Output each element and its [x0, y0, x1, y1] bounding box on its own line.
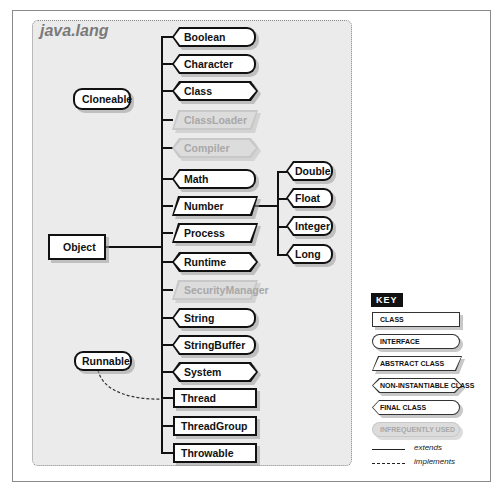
node-character[interactable]: Character [172, 54, 256, 74]
node-boolean[interactable]: Boolean [172, 27, 256, 47]
node-math[interactable]: Math [172, 169, 256, 189]
node-cloneable[interactable]: Cloneable [73, 88, 131, 110]
node-compiler[interactable]: Compiler [172, 138, 258, 158]
node-classloader[interactable]: ClassLoader [172, 110, 258, 130]
key-infrequently-used: INFREQUENTLY USED [372, 422, 460, 437]
branch-line [161, 452, 173, 454]
key-title: KEY [371, 293, 403, 307]
node-thread[interactable]: Thread [173, 388, 257, 408]
extends-legend-label: extends [414, 443, 442, 452]
extends-legend-line [372, 449, 405, 450]
node-runnable[interactable]: Runnable [74, 351, 132, 371]
object-connector [106, 246, 162, 248]
key-non-instantiable-class: NON-INSTANTIABLE CLASS [372, 378, 462, 393]
node-object[interactable]: Object [48, 234, 106, 260]
node-string[interactable]: String [172, 308, 256, 328]
node-throwable[interactable]: Throwable [173, 443, 257, 463]
node-securitymanager[interactable]: SecurityManager [172, 280, 258, 300]
node-double[interactable]: Double [286, 161, 333, 181]
node-number[interactable]: Number [172, 196, 258, 216]
node-class[interactable]: Class [172, 81, 258, 101]
key-final-class: FINAL CLASS [372, 400, 460, 415]
node-stringbuffer[interactable]: StringBuffer [172, 335, 256, 355]
implements-legend-label: implements [414, 457, 455, 466]
package-title: java.lang [40, 22, 108, 40]
node-float[interactable]: Float [286, 188, 333, 208]
implements-legend-line [372, 463, 405, 464]
node-integer[interactable]: Integer [286, 216, 333, 236]
node-long[interactable]: Long [286, 244, 333, 264]
implements-connector [95, 368, 175, 410]
node-runtime[interactable]: Runtime [172, 252, 258, 272]
node-system[interactable]: System [172, 362, 258, 382]
key-interface: INTERFACE [372, 334, 460, 349]
node-threadgroup[interactable]: ThreadGroup [173, 416, 257, 436]
branch-line [161, 425, 173, 427]
node-process[interactable]: Process [172, 223, 258, 243]
key-class: CLASS [372, 312, 460, 327]
key-abstract-class: ABSTRACT CLASS [372, 356, 462, 371]
number-trunk [277, 171, 279, 255]
